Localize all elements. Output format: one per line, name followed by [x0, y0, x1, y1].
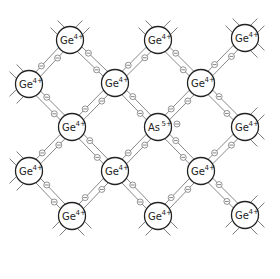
arsenic-atom: As5+ [145, 114, 172, 141]
electron-icon [173, 50, 179, 56]
electron-icon [51, 111, 57, 117]
electron-icon [228, 142, 234, 148]
electron-icon [85, 50, 91, 56]
atom-label: Ge [62, 122, 76, 133]
electron-icon [39, 150, 45, 156]
electron-icon [38, 63, 44, 69]
electron-icon [56, 142, 62, 148]
atom-label: Ge [19, 79, 33, 90]
electron-icon [185, 98, 191, 104]
electron-icon [228, 53, 234, 59]
atom-label: Ge [148, 35, 162, 46]
atom-label: Ge [105, 166, 119, 177]
atom-label: As [148, 122, 160, 133]
germanium-atom: Ge4+ [145, 27, 172, 54]
germanium-atom: Ge4+ [232, 25, 259, 52]
atom-charge: 4+ [76, 120, 86, 128]
electron-icon [224, 110, 230, 116]
electron-icon [125, 150, 131, 156]
electron-icon [142, 55, 148, 61]
electron-icon [130, 94, 136, 100]
germanium-atom: Ge4+ [59, 203, 86, 230]
free-electron-icon [174, 121, 180, 127]
atom-label: Ge [19, 166, 33, 177]
atom-charge: 4+ [33, 164, 43, 172]
electron-icon [137, 110, 143, 116]
electron-icon [82, 195, 88, 201]
atom-label: Ge [191, 166, 205, 177]
atom-charge: 4+ [119, 164, 129, 172]
electron-icon [99, 98, 105, 104]
atom-charge: 4+ [33, 77, 43, 85]
extra-electrons [174, 121, 180, 127]
electron-icon [168, 195, 174, 201]
germanium-atom: Ge4+ [188, 70, 215, 97]
atom-label: Ge [62, 211, 76, 222]
electron-icon [130, 182, 136, 188]
germanium-atom: Ge4+ [188, 158, 215, 185]
atom-label: Ge [235, 122, 249, 133]
atom-label: Ge [235, 33, 249, 44]
electron-icon [168, 106, 174, 112]
electron-icon [180, 67, 186, 73]
germanium-atom: Ge4+ [102, 70, 129, 97]
germanium-atom: Ge4+ [145, 203, 172, 230]
electron-icon [87, 138, 93, 144]
electron-icon [44, 182, 50, 188]
atom-label: Ge [105, 78, 119, 89]
crystal-lattice-diagram: Ge4+Ge4+Ge4+Ge4+Ge4+Ge4+Ge4+As5+Ge4+Ge4+… [0, 0, 280, 279]
atom-charge: 4+ [119, 76, 129, 84]
electron-icon [173, 138, 179, 144]
electron-icon [51, 199, 57, 205]
electron-icon [224, 198, 230, 204]
electron-icon [82, 106, 88, 112]
electron-icon [125, 62, 131, 68]
germanium-atom: Ge4+ [16, 158, 43, 185]
electron-icon [94, 154, 100, 160]
electron-icon [212, 150, 218, 156]
atom-charge: 4+ [76, 209, 86, 217]
electron-icon [142, 142, 148, 148]
electron-icon [216, 182, 222, 188]
electron-icon [55, 55, 61, 61]
electron-icon [180, 154, 186, 160]
atom-label: Ge [148, 211, 162, 222]
atom-charge: 4+ [162, 209, 172, 217]
atom-label: Ge [60, 35, 74, 46]
atom-charge: 4+ [205, 164, 215, 172]
germanium-atom: Ge4+ [102, 158, 129, 185]
electron-icon [212, 62, 218, 68]
electron-icon [216, 94, 222, 100]
germanium-atom: Ge4+ [232, 114, 259, 141]
germanium-atom: Ge4+ [16, 71, 43, 98]
electron-icon [185, 186, 191, 192]
germanium-atom: Ge4+ [232, 202, 259, 229]
atom-charge: 4+ [162, 33, 172, 41]
atom-charge: 4+ [249, 120, 259, 128]
atom-charge: 4+ [249, 31, 259, 39]
germanium-atom: Ge4+ [57, 27, 84, 54]
electron-icon [99, 186, 105, 192]
atom-charge: 4+ [205, 76, 215, 84]
atom-charge: 4+ [249, 208, 259, 216]
atom-label: Ge [235, 210, 249, 221]
atom-charge: 4+ [74, 33, 84, 41]
electron-icon [137, 199, 143, 205]
atom-label: Ge [191, 78, 205, 89]
germanium-atom: Ge4+ [59, 114, 86, 141]
atom-charge: 5+ [162, 120, 172, 128]
electron-icon [44, 94, 50, 100]
electron-icon [94, 67, 100, 73]
